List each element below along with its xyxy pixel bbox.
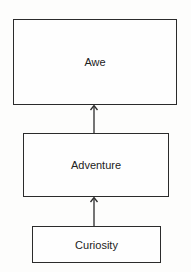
edges bbox=[0, 0, 191, 272]
